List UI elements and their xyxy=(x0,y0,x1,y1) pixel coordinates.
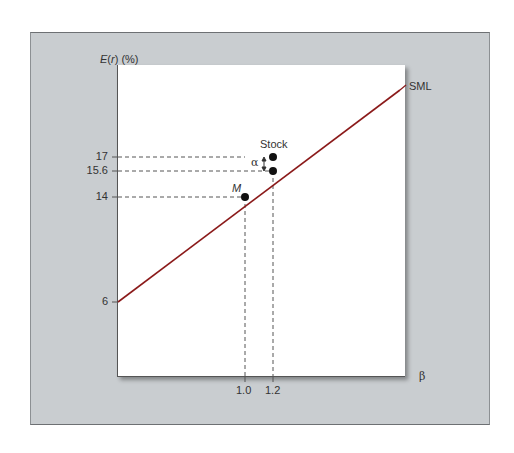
x-axis-label: β xyxy=(419,370,425,383)
y-tick-14: 14 xyxy=(68,190,108,202)
guide-lines xyxy=(118,157,273,377)
market-point xyxy=(241,193,249,201)
market-label: M xyxy=(232,182,241,194)
sml-leader xyxy=(400,85,406,90)
x-tick-1-0: 1.0 xyxy=(236,384,251,396)
alpha-arrow xyxy=(262,157,266,171)
sml-label: SML xyxy=(409,80,432,92)
stock-point xyxy=(269,153,277,161)
sml-point-1-2 xyxy=(269,167,277,175)
x-tick-1-2: 1.2 xyxy=(265,384,280,396)
y-axis-label: E(r) (%) xyxy=(100,53,139,65)
alpha-label: α xyxy=(251,156,258,169)
y-tick-15-6: 15.6 xyxy=(68,164,108,176)
sml-line xyxy=(118,90,400,302)
stock-label: Stock xyxy=(260,138,288,150)
y-tick-17: 17 xyxy=(68,150,108,162)
tick-marks xyxy=(112,157,273,382)
y-tick-6: 6 xyxy=(68,295,108,307)
chart-svg xyxy=(0,0,514,453)
